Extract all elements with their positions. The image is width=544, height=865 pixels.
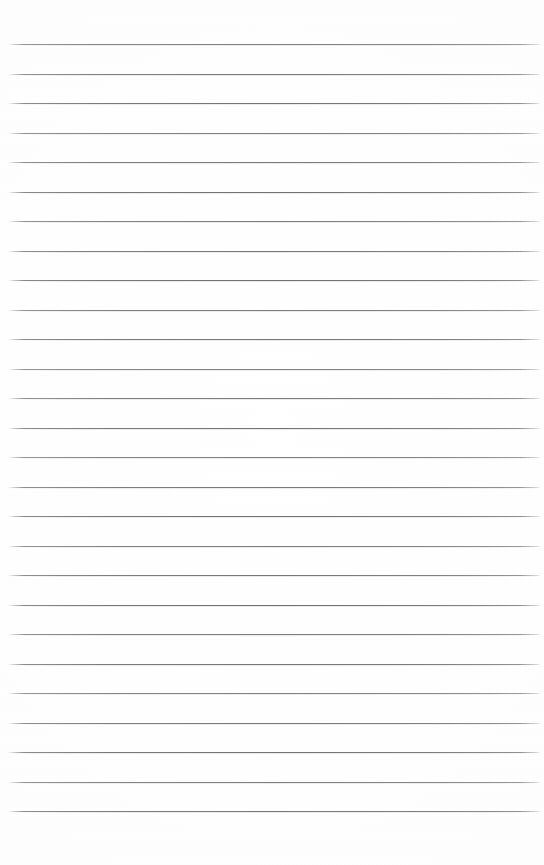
scanned-page (0, 0, 544, 865)
rule-line (8, 664, 541, 665)
rule-line (8, 339, 541, 340)
rule-line (8, 192, 541, 193)
rule-line (8, 280, 541, 281)
rule-line (8, 723, 541, 724)
rule-line (8, 44, 541, 45)
rule-line (8, 605, 541, 606)
rule-line (8, 162, 541, 163)
bottom-margin-area (0, 811, 544, 865)
rule-line (8, 398, 541, 399)
rule-line (8, 575, 541, 576)
rule-line (8, 310, 541, 311)
rule-line (8, 103, 541, 104)
rule-line (8, 693, 541, 694)
rule-line (8, 487, 541, 488)
rule-line (8, 634, 541, 635)
rule-line (8, 516, 541, 517)
rule-line (8, 428, 541, 429)
rule-line (8, 457, 541, 458)
rule-line (8, 133, 541, 134)
ruled-lines-container (0, 0, 544, 865)
rule-line (8, 74, 541, 75)
rule-line (8, 251, 541, 252)
rule-line (8, 546, 541, 547)
rule-line (8, 782, 541, 783)
rule-line (8, 221, 541, 222)
rule-line (8, 752, 541, 753)
rule-line (8, 369, 541, 370)
